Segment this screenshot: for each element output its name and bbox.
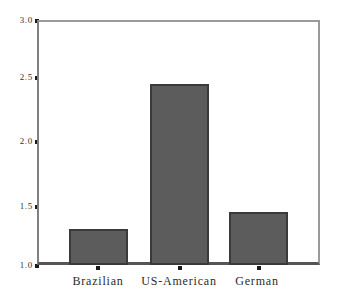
x-axis-tick-mark-brazilian [96,266,100,270]
plot-area [39,20,320,265]
y-axis-tick-label-2.0: 2.0 [5,137,33,146]
bar-us-american [150,84,209,265]
y-axis-tick-label-1.0: 1.0 [5,261,33,270]
x-axis-tick-mark-german [257,266,261,270]
bar-chart-figure: 3.0 2.5 2.0 1.5 1.0 Brazilian US-America… [0,0,337,303]
x-axis-tick-label-german: German [212,274,302,288]
y-axis-tick-label-1.5: 1.5 [5,202,33,211]
y-axis-tick-label-2.5: 2.5 [5,73,33,82]
y-axis-tick-label-3.0: 3.0 [5,16,33,25]
x-axis-tick-mark-us-american [178,266,182,270]
y-axis-tick-label-group: 3.0 2.5 2.0 1.5 1.0 [0,0,33,303]
bar-brazilian [69,229,128,265]
bar-german [229,212,288,265]
